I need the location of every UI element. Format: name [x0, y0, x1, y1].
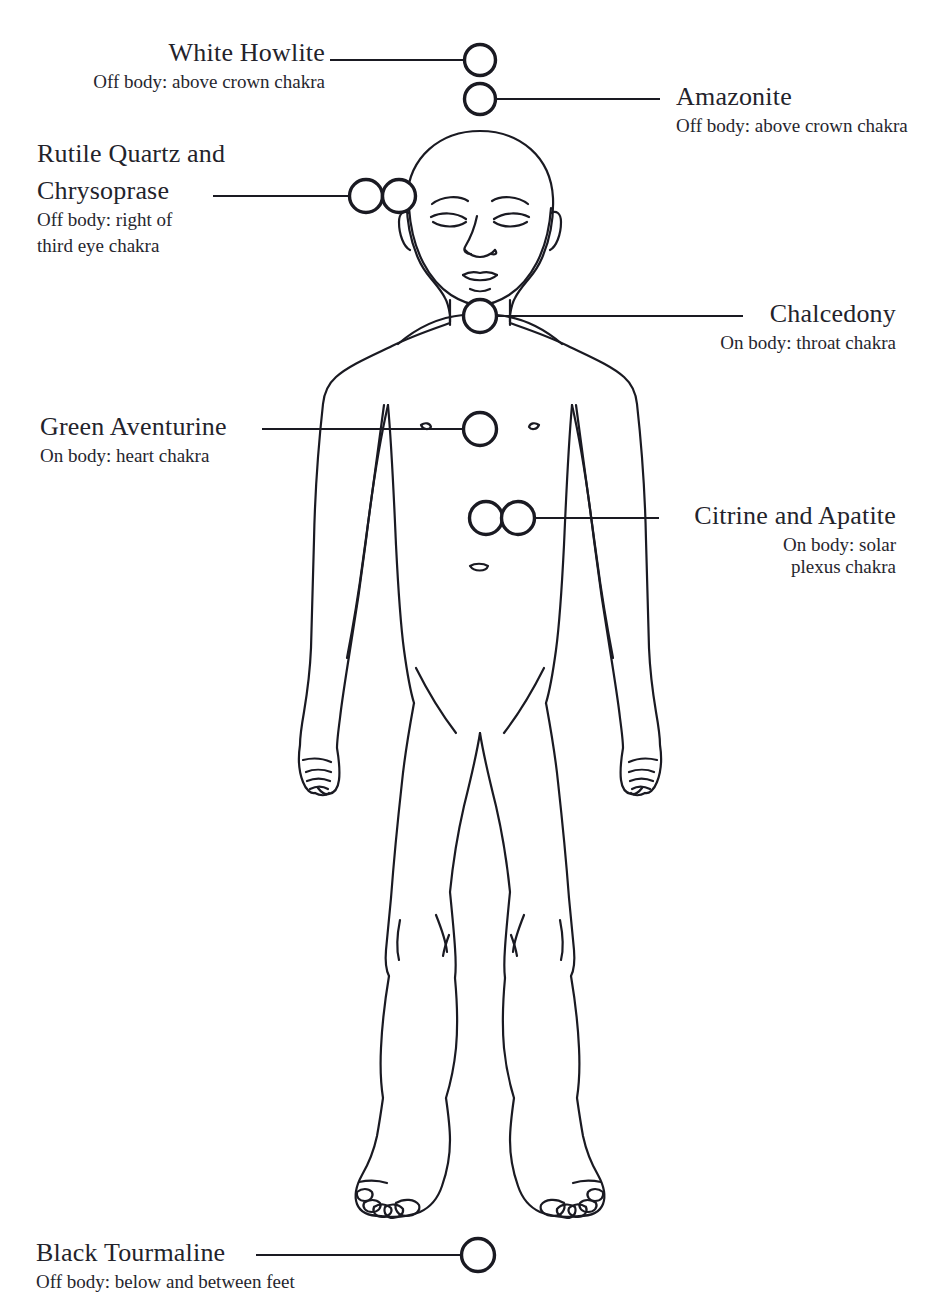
leader-lines-group: [213, 60, 743, 1255]
toe-right-5: [587, 1189, 603, 1201]
foot-right-outer: [577, 1098, 604, 1216]
label-white-howlite-title: White Howlite: [60, 38, 325, 69]
arm-left-crease: [347, 405, 384, 658]
kneecap-right-inner-crease: [513, 915, 524, 952]
groin-crease-right: [504, 668, 544, 733]
finger-right-1: [629, 770, 654, 772]
label-citrine-apatite-subtitle-line-1: On body: solar: [630, 534, 896, 556]
toe-right-1-big: [541, 1200, 565, 1216]
knee-left-inner: [450, 892, 456, 978]
knee-right-outer: [569, 898, 574, 976]
finger-left-1: [306, 770, 331, 772]
nose-base: [465, 250, 495, 257]
hand-left-inner: [318, 748, 339, 794]
finger-right-4: [631, 793, 645, 795]
finger-right-3: [632, 787, 650, 789]
head-outline-left: [407, 131, 480, 322]
hand-right-knuckles: [629, 759, 657, 762]
label-rutile-chrysoprase-subtitle-line-2: third eye chakra: [37, 234, 252, 258]
marker-white-howlite[interactable]: [465, 45, 496, 76]
toe-right-3: [569, 1204, 587, 1217]
hand-left-knuckles: [303, 759, 331, 762]
foot-left-outer: [356, 1098, 383, 1216]
eyelid-crease-right: [494, 222, 527, 227]
label-citrine-apatite-subtitle-line-2: plexus chakra: [630, 556, 896, 578]
arm-left-inner: [337, 405, 388, 748]
marker-rutile-quartz[interactable]: [350, 180, 383, 213]
jawline: [409, 208, 551, 305]
marker-apatite[interactable]: [502, 502, 535, 535]
marker-black-tourmaline[interactable]: [462, 1239, 495, 1272]
torso-left-side: [388, 405, 414, 703]
label-green-aventurine-subtitle: On body: heart chakra: [40, 445, 270, 467]
eyebrow-left: [432, 197, 468, 204]
label-chalcedony-subtitle: On body: throat chakra: [630, 332, 896, 354]
calf-left-outer: [381, 976, 389, 1098]
marker-chrysoprase[interactable]: [383, 180, 416, 213]
upper-lip: [463, 272, 497, 275]
shoulder-left: [323, 323, 450, 404]
label-citrine-apatite: Citrine and Apatite On body: solar plexu…: [630, 501, 896, 578]
label-citrine-apatite-title: Citrine and Apatite: [630, 501, 896, 532]
label-chalcedony: Chalcedony On body: throat chakra: [630, 299, 896, 354]
nose-bridge: [464, 216, 477, 254]
calf-left-inner: [446, 978, 457, 1098]
ear-right: [550, 212, 561, 250]
nipple-left: [421, 423, 431, 429]
marker-green-aventurine[interactable]: [464, 413, 497, 446]
marker-citrine[interactable]: [470, 502, 503, 535]
body-outline-group: [299, 131, 661, 1218]
chin-crease: [470, 289, 490, 291]
toe-left-3: [373, 1204, 391, 1217]
clavicle-left: [398, 315, 463, 344]
hip-left-outer: [391, 703, 414, 898]
finger-left-4: [315, 793, 329, 795]
nostril-right: [491, 250, 496, 254]
crystal-placement-diagram: White Howlite Off body: above crown chak…: [0, 0, 937, 1314]
nipple-right: [529, 423, 539, 429]
knee-right-inner: [504, 892, 510, 978]
groin-crease-left: [416, 668, 456, 733]
crystal-markers-group: [350, 45, 535, 1272]
label-black-tourmaline: Black Tourmaline Off body: below and bet…: [36, 1238, 356, 1293]
label-amazonite-subtitle: Off body: above crown chakra: [676, 115, 931, 137]
hand-right-inner: [621, 748, 642, 794]
label-black-tourmaline-subtitle: Off body: below and between feet: [36, 1271, 356, 1293]
calf-right-inner: [503, 978, 514, 1098]
kneecap-right-detail: [511, 935, 517, 956]
marker-amazonite[interactable]: [465, 84, 496, 115]
eyelid-crease-left: [433, 222, 466, 227]
lower-lip: [463, 275, 497, 280]
label-amazonite-title: Amazonite: [676, 82, 931, 113]
finger-right-2: [630, 779, 653, 781]
marker-chalcedony[interactable]: [464, 300, 497, 333]
torso-right-side: [546, 405, 572, 703]
toe-left-1-big: [395, 1200, 419, 1216]
label-chalcedony-title: Chalcedony: [630, 299, 896, 330]
toe-right-2: [557, 1205, 576, 1218]
toe-left-5: [357, 1189, 373, 1201]
inner-thigh-right: [480, 733, 510, 892]
eyebrow-right: [492, 197, 528, 204]
label-black-tourmaline-title: Black Tourmaline: [36, 1238, 356, 1269]
toes-left-arch: [359, 1181, 387, 1183]
kneecap-left-outer-crease: [397, 920, 400, 960]
calf-right-outer: [571, 976, 579, 1098]
kneecap-left-detail: [443, 935, 449, 956]
hand-left-outer: [299, 745, 315, 793]
label-white-howlite: White Howlite Off body: above crown chak…: [60, 38, 325, 93]
arm-right-inner: [572, 405, 623, 748]
finger-left-3: [310, 787, 328, 789]
eye-left-closed: [431, 213, 466, 219]
eye-right-closed: [494, 213, 529, 219]
toe-right-4: [579, 1200, 596, 1212]
foot-right-inner: [510, 1098, 579, 1217]
label-green-aventurine: Green Aventurine On body: heart chakra: [40, 412, 270, 467]
label-white-howlite-subtitle: Off body: above crown chakra: [60, 71, 325, 93]
toe-left-4: [363, 1200, 380, 1212]
kneecap-left-inner-crease: [436, 915, 447, 952]
finger-left-2: [307, 779, 330, 781]
head-outline-right: [480, 131, 553, 322]
hip-right-outer: [546, 703, 569, 898]
navel: [470, 564, 488, 571]
